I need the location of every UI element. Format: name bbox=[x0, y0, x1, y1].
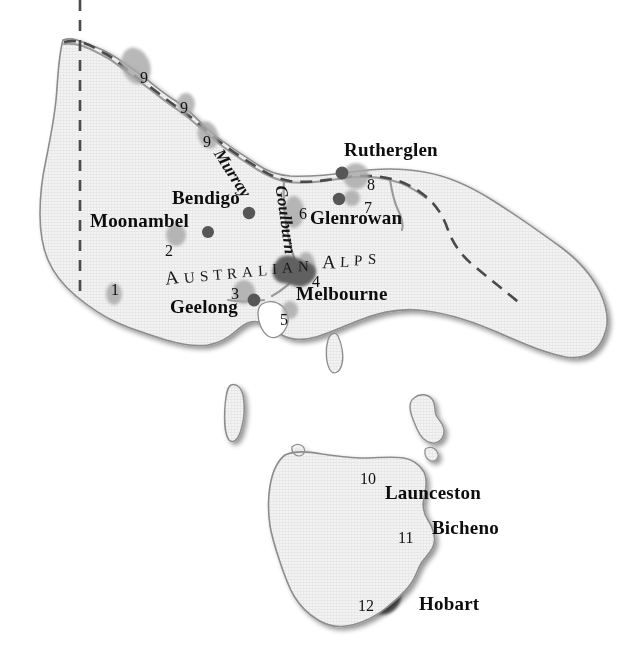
city-label-moonambel: Moonambel bbox=[90, 211, 189, 230]
region-number-3: 3 bbox=[231, 286, 239, 302]
range-label-australian-alps: AUSTRALIAN ALPS bbox=[165, 268, 381, 287]
cape-barren-island bbox=[425, 447, 438, 461]
mainland-victoria bbox=[40, 39, 607, 358]
region-number-8: 8 bbox=[367, 177, 375, 193]
wilsons-promontory bbox=[326, 333, 343, 372]
region-number-6: 6 bbox=[299, 206, 307, 222]
city-label-bendigo: Bendigo bbox=[172, 188, 240, 207]
city-label-hobart: Hobart bbox=[419, 594, 479, 613]
dot-geelong bbox=[248, 294, 261, 307]
region-number-7: 7 bbox=[364, 200, 372, 216]
dot-glenrowan bbox=[333, 193, 345, 205]
region-number-10: 10 bbox=[360, 471, 376, 487]
region-number-9-c: 9 bbox=[203, 134, 211, 150]
king-island bbox=[225, 384, 244, 441]
victoria-landmass bbox=[40, 39, 607, 358]
city-label-bicheno: Bicheno bbox=[432, 518, 499, 537]
region-number-12: 12 bbox=[358, 598, 374, 614]
bass-strait-islands bbox=[225, 384, 444, 461]
region-number-1: 1 bbox=[111, 282, 119, 298]
city-label-glenrowan: Glenrowan bbox=[310, 208, 402, 227]
dot-bendigo bbox=[243, 207, 255, 219]
dot-moonambel bbox=[202, 226, 214, 238]
map-canvas bbox=[0, 0, 629, 653]
region-number-9-a: 9 bbox=[140, 70, 148, 86]
region-number-5: 5 bbox=[280, 312, 288, 328]
region-number-2: 2 bbox=[165, 243, 173, 259]
flinders-island bbox=[410, 395, 444, 443]
range-label-text: AUSTRALIAN ALPS bbox=[165, 268, 381, 287]
city-label-launceston: Launceston bbox=[385, 483, 481, 502]
city-label-geelong: Geelong bbox=[170, 297, 238, 316]
region-number-11: 11 bbox=[398, 530, 413, 546]
region-blob-7 bbox=[344, 190, 360, 206]
region-number-9-b: 9 bbox=[180, 100, 188, 116]
map-container: Rutherglen Bendigo Glenrowan Moonambel M… bbox=[0, 0, 629, 653]
city-label-rutherglen: Rutherglen bbox=[344, 140, 438, 159]
dot-rutherglen bbox=[336, 167, 349, 180]
